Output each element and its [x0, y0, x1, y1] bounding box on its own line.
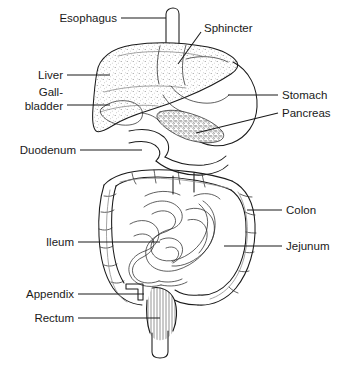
digestive-system-figure: Esophagus Sphincter Liver Gall- bladder … [0, 0, 355, 365]
label-esophagus: Esophagus [59, 12, 117, 24]
label-sphincter: Sphincter [204, 22, 253, 34]
digestive-system-diagram: Esophagus Sphincter Liver Gall- bladder … [0, 0, 355, 365]
label-appendix: Appendix [26, 288, 74, 300]
label-duodenum: Duodenum [20, 144, 76, 156]
label-pancreas: Pancreas [282, 107, 331, 119]
label-jejunum: Jejunum [286, 240, 329, 252]
label-stomach: Stomach [282, 89, 327, 101]
label-colon: Colon [286, 204, 316, 216]
label-gallbladder-line1: Gall- [39, 86, 63, 98]
label-liver: Liver [38, 69, 63, 81]
label-ileum: Ileum [46, 236, 74, 248]
label-rectum: Rectum [34, 312, 74, 324]
label-gallbladder-line2: bladder [25, 100, 64, 112]
